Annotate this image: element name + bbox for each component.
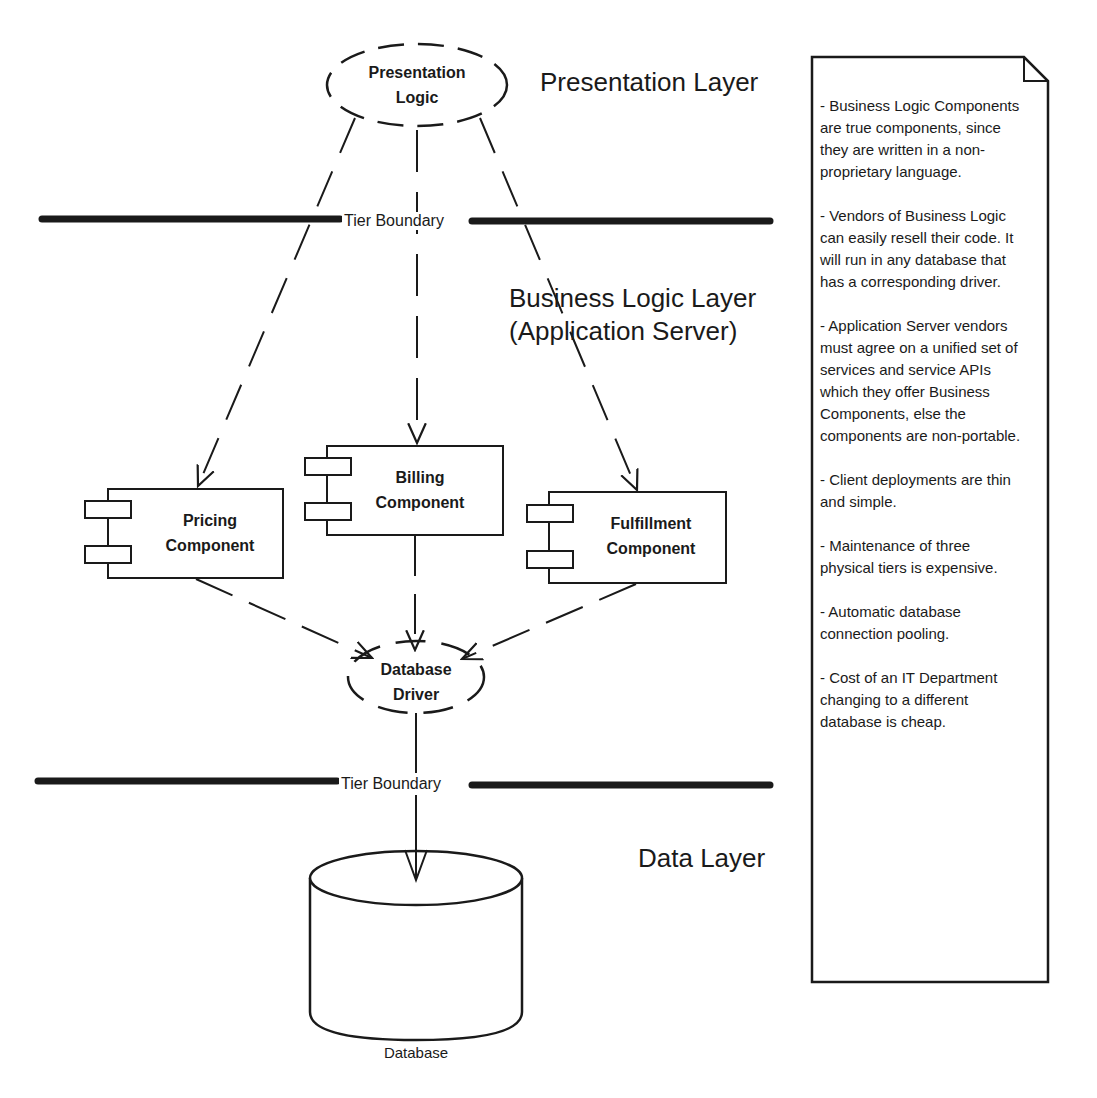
business-layer-label-line2: (Application Server) xyxy=(509,315,737,347)
business-layer-label-line1: Business Logic Layer xyxy=(509,282,756,314)
note-item: - Client deployments are thin and simple… xyxy=(820,469,1025,513)
database-label: Database xyxy=(356,1044,476,1061)
note-item: - Automatic database connection pooling. xyxy=(820,601,1025,645)
note-item: - Cost of an IT Department changing to a… xyxy=(820,667,1025,733)
note-item: - Business Logic Components are true com… xyxy=(820,95,1025,183)
note-item: - Vendors of Business Logic can easily r… xyxy=(820,205,1025,293)
billing-component-label: Billing Component xyxy=(345,465,495,515)
presentation-layer-label: Presentation Layer xyxy=(540,66,758,98)
tier-boundary-1-label: Tier Boundary xyxy=(342,212,446,230)
pricing-component-label: Pricing Component xyxy=(140,508,280,558)
note-item: - Application Server vendors must agree … xyxy=(820,315,1025,447)
data-layer-label: Data Layer xyxy=(638,842,765,874)
arrow-pricing-to-driver xyxy=(196,579,372,658)
tier-boundary-2-label: Tier Boundary xyxy=(339,775,443,793)
arrow-presentation-to-pricing xyxy=(198,118,355,486)
note-text: - Business Logic Components are true com… xyxy=(820,95,1025,755)
database-driver-label: Database Driver xyxy=(356,657,476,707)
fulfillment-component-label: Fulfillment Component xyxy=(576,511,726,561)
presentation-logic-label: Presentation Logic xyxy=(337,60,497,110)
arrow-fulfillment-to-driver xyxy=(462,584,636,659)
note-item: - Maintenance of three physical tiers is… xyxy=(820,535,1025,579)
database-cylinder xyxy=(310,850,522,1040)
